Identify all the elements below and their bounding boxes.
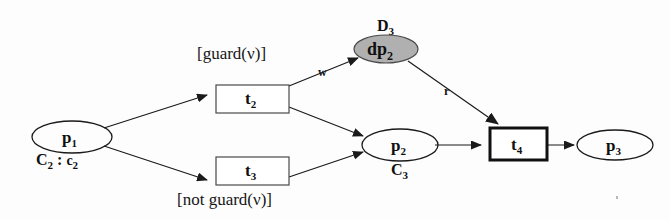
arc-p1-to-t2: [104, 95, 207, 128]
place-p3-label: p3: [606, 137, 621, 157]
transition-t4-label: t4: [511, 136, 522, 156]
arc-label-w: w: [318, 66, 327, 78]
place-p2-tag: C3: [391, 162, 408, 181]
place-dp2-tag: D3: [377, 18, 394, 37]
net-graphics-layer: [0, 0, 670, 220]
arc-t2-to-p2: [289, 107, 363, 136]
transition-t3-label: t3: [245, 162, 256, 182]
guard-false-label: [not guard(ν)]: [177, 191, 272, 208]
arc-t3-to-p2: [289, 152, 363, 177]
petri-net-diagram: p1 C2 : c2 p2 C3 p3 dp2 D3 t2 t3 t4 [gua…: [0, 0, 670, 220]
transition-t2-label: t2: [245, 90, 256, 110]
place-dp2-label: dp2: [367, 40, 393, 62]
arc-dp2-to-t4: [408, 61, 498, 124]
place-p1-label: p1: [62, 129, 77, 149]
place-p2-label: p2: [391, 137, 406, 157]
arc-label-r: r: [444, 85, 449, 97]
place-p1-tag: C2 : c2: [36, 152, 78, 171]
guard-true-label: [guard(ν)]: [197, 45, 266, 62]
arc-p1-to-t3: [104, 146, 207, 180]
scan-artifact-speck: [616, 196, 618, 199]
